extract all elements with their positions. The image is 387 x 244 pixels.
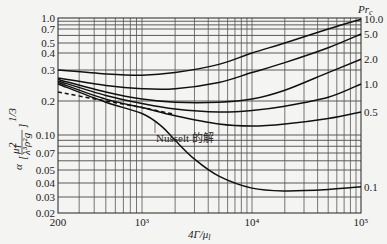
- nusselt-annotation: Nusselt 的解: [155, 122, 214, 144]
- pr-curve: [58, 34, 361, 89]
- pr-curve: [58, 59, 361, 102]
- svg-text:Nusselt 的解: Nusselt 的解: [156, 131, 214, 144]
- y-tick-label: 0.10: [36, 129, 56, 141]
- y-tick-label: 0.05: [36, 164, 56, 176]
- log-log-chart: 1.00.70.50.40.30.20.100.070.050.040.030.…: [0, 0, 387, 244]
- pr-value-label: 0.5: [364, 106, 378, 118]
- x-tick-label: 10³: [135, 216, 150, 228]
- x-axis-label: 4Γ/μl: [188, 228, 211, 242]
- plot-frame: [58, 18, 361, 213]
- curves: [58, 19, 361, 191]
- grid-lines: [58, 18, 361, 213]
- x-tick-label: 200: [50, 216, 67, 228]
- pr-curve: [58, 19, 361, 75]
- pr-value-label: 2.0: [364, 53, 378, 65]
- y-tick-label: 0.4: [41, 47, 55, 59]
- pr-value-label: 0.1: [364, 181, 378, 193]
- pr-labels: 10.05.02.01.00.50.1: [364, 13, 384, 193]
- y-tick-label: 0.2: [41, 95, 55, 107]
- svg-text:α: α: [12, 164, 24, 170]
- pr-curve: [58, 82, 361, 126]
- y-tick-label: 0.7: [41, 23, 55, 35]
- y-tick-label: 0.3: [41, 64, 55, 76]
- pr-value-label: 5.0: [364, 28, 378, 40]
- y-tick-label: 0.07: [36, 147, 56, 159]
- svg-text:1/3: 1/3: [6, 107, 18, 122]
- x-tick-labels: 20010³10⁴10⁵: [50, 216, 369, 228]
- pr-value-label: 1.0: [364, 78, 378, 90]
- x-tick-label: 10⁴: [245, 216, 260, 228]
- y-tick-labels: 1.00.70.50.40.30.20.100.070.050.040.030.…: [36, 12, 56, 219]
- svg-text:]: ]: [16, 124, 28, 129]
- y-axis-label: α [ μ 2 l λ³ρ²g ] 1/3: [6, 107, 32, 170]
- nusselt-curve: [58, 92, 175, 114]
- x-tick-label: 10⁵: [354, 216, 369, 228]
- pr-legend-title: Prc: [357, 3, 373, 17]
- pr-value-label: 10.0: [364, 13, 384, 25]
- y-tick-label: 0.03: [36, 191, 56, 203]
- y-tick-label: 0.04: [36, 177, 56, 189]
- svg-text:λ³ρ²g: λ³ρ²g: [20, 132, 32, 156]
